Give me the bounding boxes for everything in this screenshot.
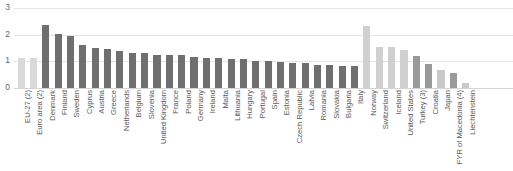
category-label: Czech Republic [296,90,304,171]
bar [240,59,247,88]
category-label: Cyprus [86,90,94,171]
bar [339,66,346,88]
bar-slot [151,0,163,88]
category-label: Norway [370,90,378,171]
category-label: Denmark [49,90,57,171]
plot-area [14,0,513,88]
bar-series [14,0,513,88]
bar-slot [435,0,447,88]
bar-slot [398,0,410,88]
bar-slot [423,0,435,88]
bar-slot [64,0,76,88]
y-tick-label: 2 [5,30,10,39]
x-axis-category-labels: EU-27 (2)Euro area (2)DenmarkFinlandSwed… [14,90,513,171]
bar [363,26,370,88]
bar [289,63,296,88]
bar [153,55,160,88]
bar-slot [77,0,89,88]
bar-slot [386,0,398,88]
category-label: Iceland [395,90,403,171]
bar [129,53,136,88]
bar [277,62,284,88]
bar-slot [213,0,225,88]
category-label: Finland [61,90,69,171]
bar-slot [114,0,126,88]
bar-slot [250,0,262,88]
category-label: Ireland [209,90,217,171]
bar [413,56,420,88]
bar [190,57,197,88]
bar-chart: 0123 EU-27 (2)Euro area (2)DenmarkFinlan… [0,0,513,171]
bar [141,53,148,88]
category-label: Euro area (2) [36,90,44,171]
gridline-0 [14,88,513,89]
bar [215,58,222,88]
bar-slot [126,0,138,88]
category-label: Sweden [73,90,81,171]
bar [42,25,49,88]
category-label: Belgium [135,90,143,171]
bar-slot [40,0,52,88]
category-label: Lithuania [234,90,242,171]
bar [228,59,235,88]
bar [30,58,37,88]
category-label: Liechtenstein [469,90,477,171]
bar-slot [373,0,385,88]
bar [302,63,309,88]
bar-slot [27,0,39,88]
bar-slot [410,0,422,88]
bar-slot [348,0,360,88]
bar-slot [324,0,336,88]
bar-slot [139,0,151,88]
category-label: Turkey (3) [419,90,427,171]
bar-slot [89,0,101,88]
bar-slot [287,0,299,88]
category-label: Romania [320,90,328,171]
category-label: United States [407,90,415,171]
bar [79,45,86,88]
category-label: EU-27 (2) [24,90,32,171]
category-label: Spain [271,90,279,171]
bar-slot [311,0,323,88]
bar-slot [361,0,373,88]
y-tick-label: 3 [5,3,10,12]
bar-slot [274,0,286,88]
bar [400,50,407,88]
category-label: Malta [222,90,230,171]
category-label: Croatia [432,90,440,171]
category-label: Switzerland [382,90,390,171]
category-label: Poland [185,90,193,171]
bar [104,49,111,88]
category-label: Netherlands [123,90,131,171]
bar [351,66,358,88]
bar [252,61,259,88]
bar [326,65,333,88]
bar [166,55,173,88]
bar-slot [225,0,237,88]
category-label: Japan [444,90,452,171]
bar [425,64,432,88]
y-axis: 0123 [0,0,14,95]
category-label: Slovenia [148,90,156,171]
bar [388,47,395,88]
bar-slot [163,0,175,88]
bar [55,34,62,88]
bar-slot [447,0,459,88]
bar [116,51,123,88]
bar [203,58,210,88]
bar-slot [176,0,188,88]
bar [178,55,185,88]
bar [92,48,99,88]
bar-slot [200,0,212,88]
bar-slot [336,0,348,88]
bar [314,65,321,88]
bar-slot [262,0,274,88]
y-tick-label: 1 [5,56,10,65]
category-label: Slovakia [333,90,341,171]
category-label: FYR of Macedonia (4) [456,90,464,171]
category-label: Bulgaria [345,90,353,171]
category-label: Hungary [246,90,254,171]
category-label: Estonia [283,90,291,171]
bar [450,73,457,88]
bar-slot [299,0,311,88]
